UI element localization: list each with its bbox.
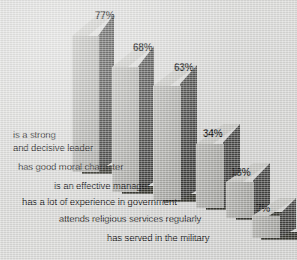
bar-2-value: 68% (133, 42, 152, 53)
bar-1-value: 77% (95, 10, 114, 21)
bar-3-value: 63% (174, 62, 193, 73)
bar-chart: 77% 68% 63% 34% 18% 7% is a strong (0, 0, 297, 260)
bar-4-front-face (196, 144, 224, 208)
bar-5-value: 18% (231, 167, 250, 178)
category-label-5: attends religious services regularly (59, 213, 201, 224)
category-label-1-line-1: is a strong (13, 129, 56, 140)
bar-4-value: 34% (203, 128, 222, 139)
bar-2-side-face (138, 46, 154, 192)
bar-2-front-face (112, 67, 139, 192)
bar-3 (153, 65, 197, 200)
bar-5-front-face (226, 182, 254, 218)
category-label-4: has a lot of experience in government (22, 196, 177, 207)
bar-3-front-face (153, 86, 181, 200)
bar-3-side-face (180, 65, 197, 200)
bar-6-front-face (252, 216, 280, 238)
category-label-2: has good moral character (18, 161, 123, 172)
watermark (141, 14, 291, 72)
category-label-1-line-2: and decisive leader (13, 142, 93, 153)
category-label-3: is an effective manager (54, 180, 150, 191)
bar-6-value: 7% (256, 203, 270, 214)
category-label-6: has served in the military (107, 232, 209, 243)
